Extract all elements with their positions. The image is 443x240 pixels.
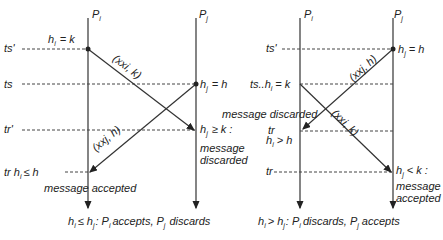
svg-text:message discarded: message discarded [222, 108, 318, 120]
svg-text:(xxi, k): (xxi, k) [111, 52, 144, 81]
message-xxj-arrow [90, 84, 196, 172]
svg-text:message accepted: message accepted [44, 182, 137, 194]
svg-text:hj< k :: hj< k : [396, 164, 428, 179]
svg-text:tr: tr [266, 165, 274, 177]
svg-text:message: message [200, 142, 245, 154]
send-point-i [86, 47, 91, 52]
svg-text:ts': ts' [266, 42, 278, 54]
svg-text:hi= k: hi= k [48, 33, 75, 47]
svg-text:hj= h: hj= h [398, 43, 424, 58]
distributed-message-diagram: Pi Pj ts' ts tr' tr hi≤ h hi= k hj= h hj… [0, 0, 443, 240]
send-point-j-right [391, 47, 396, 52]
send-point-j [194, 82, 199, 87]
svg-text:(xxi, k): (xxi, k) [330, 107, 362, 138]
ts-prime-label: ts' [4, 42, 16, 54]
svg-text:tr hi≤ h: tr hi≤ h [4, 166, 39, 180]
svg-text:message: message [396, 180, 441, 192]
svg-text:Pj: Pj [394, 8, 403, 23]
message-xxi-arrow [88, 49, 194, 130]
right-diagram: Pi Pj ts' ts..hi= k hj= h message discar… [222, 8, 442, 230]
svg-text:Pi: Pi [304, 8, 313, 22]
svg-text:hi≤ hj: Piaccepts, Pjdiscards: hi≤ hj: Piaccepts, Pjdiscards [68, 215, 211, 230]
svg-text:discarded: discarded [200, 154, 249, 166]
svg-text:Pi: Pi [92, 8, 101, 22]
svg-text:hj= h: hj= h [200, 78, 227, 93]
ts-label: ts [4, 78, 13, 90]
svg-text:ts..hi= k: ts..hi= k [250, 78, 291, 92]
svg-text:hi> hj: Pidiscards, Pjaccepts: hi> hj: Pidiscards, Pjaccepts [258, 215, 400, 230]
svg-text:hi> h: hi> h [266, 134, 292, 148]
svg-text:hj≥ k :: hj≥ k : [200, 123, 232, 138]
svg-text:accepted: accepted [396, 192, 442, 204]
tr-prime-label: tr' [4, 123, 14, 135]
svg-text:(xxj, h): (xxj, h) [346, 52, 379, 83]
svg-text:Pj: Pj [199, 8, 208, 23]
left-diagram: Pi Pj ts' ts tr' tr hi≤ h hi= k hj= h hj… [4, 8, 249, 230]
